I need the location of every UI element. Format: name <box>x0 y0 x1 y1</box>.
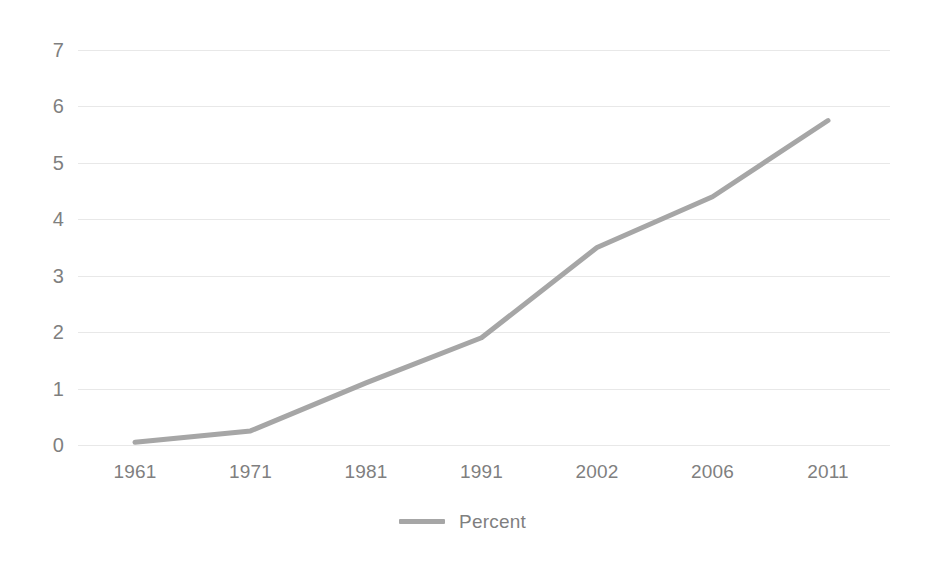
y-tick-label-6: 6 <box>24 96 64 116</box>
plot-area <box>78 50 890 445</box>
y-tick-label-0: 0 <box>24 435 64 455</box>
legend-label-percent: Percent <box>459 512 526 531</box>
x-tick-label-2011: 2011 <box>783 462 873 481</box>
x-tick-label-2002: 2002 <box>552 462 642 481</box>
x-tick-label-2006: 2006 <box>668 462 758 481</box>
y-tick-label-7: 7 <box>24 40 64 60</box>
series-line-percent <box>135 121 828 443</box>
y-tick-label-3: 3 <box>24 266 64 286</box>
legend-line-swatch-icon <box>399 519 445 524</box>
y-axis: 01234567 <box>8 50 64 445</box>
x-tick-label-1981: 1981 <box>321 462 411 481</box>
x-tick-label-1971: 1971 <box>206 462 296 481</box>
y-tick-label-5: 5 <box>24 153 64 173</box>
y-tick-label-4: 4 <box>24 209 64 229</box>
legend-item-percent: Percent <box>399 512 526 531</box>
x-tick-label-1961: 1961 <box>90 462 180 481</box>
chart-legend: Percent <box>0 512 925 531</box>
y-tick-label-1: 1 <box>24 379 64 399</box>
x-tick-label-1991: 1991 <box>437 462 527 481</box>
line-chart: 01234567 1961197119811991200220062011 Pe… <box>0 0 925 564</box>
series-percent <box>78 50 890 445</box>
x-axis: 1961197119811991200220062011 <box>78 462 890 492</box>
gridline-0 <box>78 445 890 446</box>
y-tick-label-2: 2 <box>24 322 64 342</box>
